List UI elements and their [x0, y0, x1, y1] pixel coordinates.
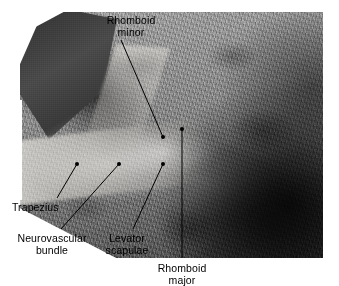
- label-levator-scapulae: Levatorscapulae: [99, 232, 155, 256]
- label-line-neurovascular-bundle-1: bundle: [10, 244, 94, 256]
- label-line-rhomboid-minor-1: minor: [96, 26, 166, 38]
- label-line-rhomboid-major-0: Rhomboid: [147, 262, 217, 274]
- label-line-trapezius-0: Trapezius: [12, 201, 72, 213]
- anatomy-figure: RhomboidminorTrapeziusNeurovascularbundl…: [0, 0, 339, 286]
- label-line-rhomboid-minor-0: Rhomboid: [96, 14, 166, 26]
- label-rhomboid-minor: Rhomboidminor: [96, 14, 166, 38]
- label-rhomboid-major: Rhomboidmajor: [147, 262, 217, 286]
- dissection-photograph: [20, 12, 323, 258]
- photo-cutout-left-strip: [0, 100, 22, 200]
- label-line-rhomboid-major-1: major: [147, 274, 217, 286]
- photo-film-grain: [20, 12, 323, 258]
- label-neurovascular-bundle: Neurovascularbundle: [10, 232, 94, 256]
- label-line-levator-scapulae-1: scapulae: [99, 244, 155, 256]
- label-line-levator-scapulae-0: Levator: [99, 232, 155, 244]
- label-line-neurovascular-bundle-0: Neurovascular: [10, 232, 94, 244]
- label-trapezius: Trapezius: [12, 201, 72, 213]
